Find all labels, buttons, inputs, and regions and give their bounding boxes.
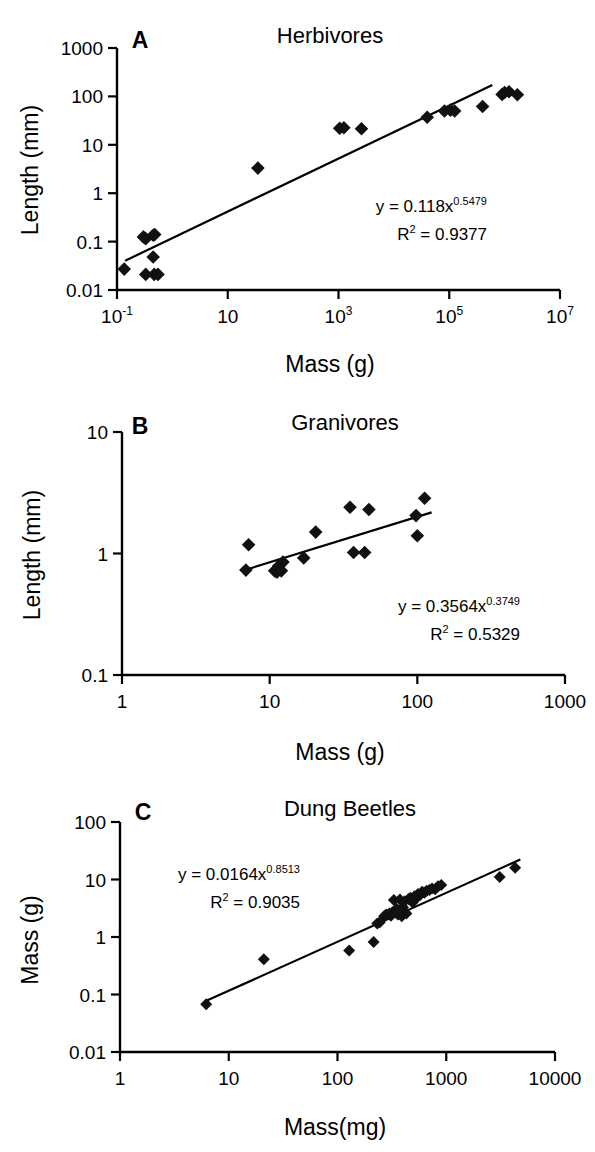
data-point (409, 509, 423, 523)
x-tick-label-sup: -1 (122, 304, 133, 318)
y-tick-label: 10 (87, 422, 108, 443)
y-tick-label: 1 (97, 544, 108, 565)
y-tick-label: 100 (71, 86, 103, 107)
equation-exponent: 0.3749 (486, 595, 520, 607)
data-point (494, 871, 506, 883)
data-point (362, 503, 376, 517)
y-axis-title: Mass (g) (17, 895, 43, 984)
panel-letter: C (135, 799, 152, 825)
x-tick-label: 107 (546, 304, 574, 327)
data-point (146, 250, 160, 264)
x-tick-label-sup: 5 (456, 304, 463, 318)
panel-b-granivores: 0.11101101001000BGranivoresLength (mm)Ma… (0, 390, 595, 780)
panel-title: Granivores (291, 410, 399, 435)
panel-title: Herbivores (277, 23, 383, 48)
x-tick-label: 10 (259, 691, 280, 712)
data-point (355, 122, 369, 136)
x-tick-label-sup: 3 (346, 304, 353, 318)
x-tick-label: 10000 (529, 1068, 582, 1089)
x-axis-title: Mass(mg) (284, 1114, 386, 1140)
r2-label: R2 = 0.9035 (210, 891, 300, 912)
data-point (117, 262, 131, 276)
y-tick-label: 10 (82, 135, 103, 156)
panel-letter: A (132, 27, 149, 53)
r2-value: = 0.5329 (449, 625, 520, 644)
equation-label: y = 0.118x0.5479 (376, 195, 487, 216)
x-tick-label: 10-1 (101, 304, 133, 327)
data-point (411, 529, 425, 543)
x-tick-label: 105 (435, 304, 463, 327)
r2-label: R2 = 0.5329 (430, 623, 520, 644)
panel-a-plot-area: 0.010.1110100100010-110103105107AHerbivo… (17, 23, 574, 377)
equation-label: y = 0.3564x0.3749 (398, 595, 520, 616)
y-axis-title: Length (mm) (19, 490, 45, 620)
r2-label: R2 = 0.9377 (397, 223, 487, 244)
y-tick-label: 1000 (61, 38, 103, 59)
y-tick-label: 10 (85, 870, 106, 891)
data-point (476, 100, 490, 114)
panel-b-svg: 0.11101101001000BGranivoresLength (mm)Ma… (0, 390, 595, 780)
r2-value: = 0.9035 (229, 893, 300, 912)
x-tick-label: 100 (322, 1068, 354, 1089)
data-point (258, 953, 270, 965)
equation-exponent: 0.8513 (266, 863, 300, 875)
panel-letter: B (132, 413, 149, 439)
data-point (242, 538, 256, 552)
y-tick-label: 0.01 (66, 280, 103, 301)
y-tick-label: 0.1 (82, 665, 108, 686)
r2-value: = 0.9377 (416, 225, 487, 244)
y-tick-label: 100 (74, 812, 106, 833)
y-axis-title: Length (mm) (17, 105, 43, 235)
x-axis-title: Mass (g) (295, 739, 384, 765)
panel-c-dung-beetles: 0.010.1110100110100100010000CDung Beetle… (0, 780, 595, 1152)
data-point (343, 945, 355, 957)
x-axis-title: Mass (g) (285, 351, 374, 377)
data-point (309, 525, 323, 539)
data-point (251, 161, 265, 175)
y-tick-label: 1 (92, 183, 103, 204)
y-tick-label: 0.1 (77, 232, 103, 253)
data-point (343, 501, 357, 515)
regression-line (245, 512, 432, 570)
data-point (420, 110, 434, 124)
data-point (368, 936, 380, 948)
x-tick-label: 1 (115, 1068, 126, 1089)
panel-a-svg: 0.010.1110100100010-110103105107AHerbivo… (0, 0, 595, 390)
y-tick-label: 0.01 (69, 1042, 106, 1063)
panel-c-plot-area: 0.010.1110100110100100010000CDung Beetle… (17, 796, 581, 1140)
figure-page: 0.010.1110100100010-110103105107AHerbivo… (0, 0, 595, 1152)
data-point (358, 546, 372, 560)
y-tick-label: 1 (95, 927, 106, 948)
panel-b-plot-area: 0.11101101001000BGranivoresLength (mm)Ma… (19, 410, 586, 765)
x-tick-label: 10 (217, 306, 238, 327)
data-point (418, 491, 432, 505)
panel-a-herbivores: 0.010.1110100100010-110103105107AHerbivo… (0, 0, 595, 390)
panel-title: Dung Beetles (284, 796, 416, 821)
x-tick-label: 103 (325, 304, 353, 327)
x-tick-label: 1 (117, 691, 128, 712)
x-tick-label-sup: 7 (567, 304, 574, 318)
data-point (239, 563, 253, 577)
x-tick-label: 10 (218, 1068, 239, 1089)
equation-label: y = 0.0164x0.8513 (178, 863, 300, 884)
y-tick-label: 0.1 (80, 985, 106, 1006)
x-tick-label: 1000 (425, 1068, 467, 1089)
panel-c-svg: 0.010.1110100110100100010000CDung Beetle… (0, 780, 595, 1152)
equation-exponent: 0.5479 (453, 195, 487, 207)
x-tick-label: 100 (401, 691, 433, 712)
x-tick-label: 1000 (544, 691, 586, 712)
